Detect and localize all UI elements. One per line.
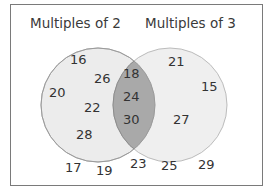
number-17: 17 bbox=[65, 160, 82, 175]
number-30: 30 bbox=[123, 112, 140, 127]
set-label-multiples-of-2: Multiples of 2 bbox=[30, 15, 121, 31]
venn-diagram: Multiples of 2 Multiples of 3 16 26 20 2… bbox=[0, 0, 268, 195]
number-19: 19 bbox=[96, 163, 113, 178]
number-16: 16 bbox=[70, 52, 87, 67]
number-18: 18 bbox=[123, 66, 140, 81]
number-29: 29 bbox=[198, 157, 215, 172]
number-24: 24 bbox=[123, 89, 140, 104]
number-26: 26 bbox=[94, 71, 111, 86]
number-27: 27 bbox=[173, 112, 190, 127]
number-23: 23 bbox=[130, 156, 147, 171]
number-22: 22 bbox=[84, 100, 101, 115]
number-15: 15 bbox=[201, 79, 218, 94]
number-20: 20 bbox=[49, 85, 66, 100]
number-25: 25 bbox=[161, 158, 178, 173]
number-21: 21 bbox=[168, 54, 185, 69]
number-28: 28 bbox=[76, 127, 93, 142]
set-label-multiples-of-3: Multiples of 3 bbox=[145, 15, 236, 31]
